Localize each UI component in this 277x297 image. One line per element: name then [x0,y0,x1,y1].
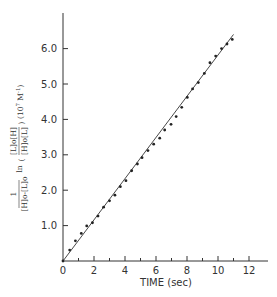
data-point [175,115,178,118]
chart: 024681012 1.02.03.04.05.06.0 TIME (sec) … [0,0,277,297]
y-tick-label: 6.0 [41,43,57,54]
data-point [141,156,144,159]
data-point [220,47,223,50]
x-tick-label: 12 [243,265,256,276]
y-tick-label: 4.0 [41,114,57,125]
data-point [152,143,155,146]
data-point [214,55,217,58]
ylabel-paren-close: ) [17,121,26,124]
data-point [136,163,139,166]
data-point [91,221,94,224]
data-point [130,169,133,172]
axes [63,13,268,261]
data-point [102,206,105,209]
ylabel-units: (107 M-1) [15,85,25,119]
x-axis-title: TIME (sec) [139,277,192,288]
data-point [85,225,88,228]
ylabel-prefactor-num: 1 [9,192,18,197]
data-point [114,194,117,197]
y-tick-label: 2.0 [41,185,57,196]
data-point [186,96,189,99]
x-tick-label: 4 [122,265,128,276]
y-tick-label: 3.0 [41,149,57,160]
ylabel-prefactor-den: [H]o-[L]o [20,176,29,211]
data-point [163,129,166,132]
ylabel-ln: ln [15,165,24,172]
data-point [68,249,71,252]
fit-line-segment [63,34,234,261]
y-tick-label: 5.0 [41,79,57,90]
data-point [231,38,234,41]
data-point [203,72,206,75]
y-ticks: 1.02.03.04.05.06.0 [41,43,68,231]
data-point [197,81,200,84]
data-point [119,185,122,188]
data-point [80,232,83,235]
x-ticks: 024681012 [60,256,256,276]
x-tick-label: 6 [153,265,159,276]
data-point [226,43,229,46]
data-point [180,106,183,109]
data-point [209,61,212,64]
data-point [170,123,173,126]
y-tick-label: 1.0 [41,220,57,231]
data-point [147,149,150,152]
data-point [62,260,65,263]
y-axis-title: 1 [H]o-[L]o ln ( [L]o[H] [H]o[L] ) (107 … [9,85,29,212]
data-point [108,199,111,202]
data-point [97,215,100,218]
fit-line [63,34,234,261]
ylabel-frac-num: [L]o[H] [9,127,18,155]
x-tick-label: 2 [91,265,97,276]
x-tick-label: 0 [60,265,66,276]
x-tick-label: 10 [212,265,225,276]
data-point [158,137,161,140]
data-point [191,88,194,91]
ylabel-frac-den: [H]o[L] [20,127,29,155]
data-point [74,239,77,242]
ylabel-paren-open: ( [17,158,26,161]
x-tick-label: 8 [184,265,190,276]
data-point [125,179,128,182]
